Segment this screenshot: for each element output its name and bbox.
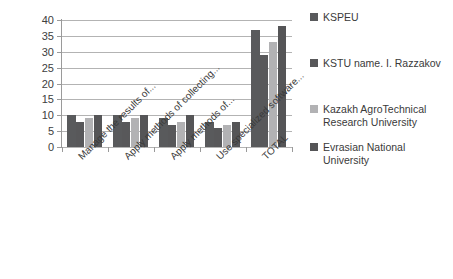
bar-group: [159, 20, 195, 147]
legend-swatch-icon: [310, 105, 318, 113]
x-axis-tick: [292, 147, 293, 152]
y-axis-tick-label: 30: [14, 47, 54, 58]
bar-group: [67, 20, 103, 147]
bar: [214, 128, 222, 147]
y-axis-tick-label: 20: [14, 79, 54, 90]
legend-label: KSPEU: [323, 11, 359, 24]
y-axis-tick: [57, 20, 62, 21]
legend-swatch-icon: [310, 143, 318, 151]
legend-item[interactable]: KSTU name. I. Razzakov: [310, 57, 441, 70]
legend-swatch-icon: [310, 13, 318, 21]
bar: [67, 115, 75, 147]
y-axis-tick-label: 35: [14, 31, 54, 42]
bar-group: [205, 20, 241, 147]
y-axis-tick-label: 5: [14, 126, 54, 137]
y-axis-tick: [57, 68, 62, 69]
legend-label: Kazakh AgroTechnical Research University: [323, 103, 451, 129]
y-axis-tick: [57, 115, 62, 116]
bar: [168, 125, 176, 147]
bar: [122, 122, 130, 147]
y-axis-tick-label: 15: [14, 94, 54, 105]
bar-chart: 0510152025303540 Manage the results of..…: [0, 0, 453, 279]
legend-label: KSTU name. I. Razzakov: [323, 57, 441, 70]
x-axis-tick: [154, 147, 155, 152]
legend-item[interactable]: Evrasian National University: [310, 141, 451, 167]
x-axis-tick: [108, 147, 109, 152]
y-axis-tick: [57, 36, 62, 37]
x-axis-tick: [62, 147, 63, 152]
bar-group: [251, 20, 287, 147]
bar-group: [113, 20, 149, 147]
y-axis-tick: [57, 99, 62, 100]
y-axis-tick: [57, 52, 62, 53]
bar: [76, 122, 84, 147]
y-axis-tick-label: 10: [14, 110, 54, 121]
y-axis-tick: [57, 84, 62, 85]
y-axis-tick-label: 25: [14, 63, 54, 74]
x-axis-tick: [200, 147, 201, 152]
legend-item[interactable]: KSPEU: [310, 11, 359, 24]
plot-area: [62, 20, 292, 147]
legend-swatch-icon: [310, 59, 318, 67]
y-axis-tick-label: 0: [14, 142, 54, 153]
x-axis-tick: [246, 147, 247, 152]
y-axis-tick: [57, 131, 62, 132]
legend-label: Evrasian National University: [323, 141, 451, 167]
legend-item[interactable]: Kazakh AgroTechnical Research University: [310, 103, 451, 129]
y-axis-tick-label: 40: [14, 15, 54, 26]
